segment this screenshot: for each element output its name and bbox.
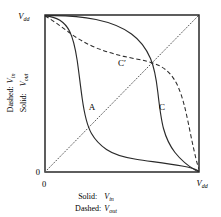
x-axis-label-line2-sub: out bbox=[109, 208, 117, 214]
curve-label-C-prime: C′ bbox=[118, 58, 126, 68]
x-axis-max-tick-sub: dd bbox=[202, 183, 209, 189]
vtc-butterfly-figure: Vdd 0 0 Vdd Solid:Vin Dashed:Vout Dashed… bbox=[0, 0, 221, 217]
x-axis-label-line2-prefix: Dashed: bbox=[75, 204, 101, 213]
x-axis-label-line1-prefix: Solid: bbox=[78, 192, 97, 201]
y-axis-label-line1-sub: in bbox=[10, 74, 16, 79]
curve-label-A: A bbox=[89, 102, 96, 112]
x-axis-label-line1-sub: in bbox=[109, 196, 114, 202]
y-axis-label-line2-prefix: Solid: bbox=[19, 93, 28, 112]
y-axis-label-line1-prefix: Dashed: bbox=[6, 86, 15, 112]
vtc-plot-svg: Vdd 0 0 Vdd Solid:Vin Dashed:Vout Dashed… bbox=[0, 0, 221, 217]
y-axis-max-tick-sub: dd bbox=[23, 16, 30, 22]
y-axis-label-line2-sub: out bbox=[23, 73, 29, 81]
x-axis-origin-tick: 0 bbox=[42, 179, 46, 189]
y-axis-origin-tick: 0 bbox=[36, 167, 40, 177]
curve-label-C: C bbox=[159, 102, 165, 112]
